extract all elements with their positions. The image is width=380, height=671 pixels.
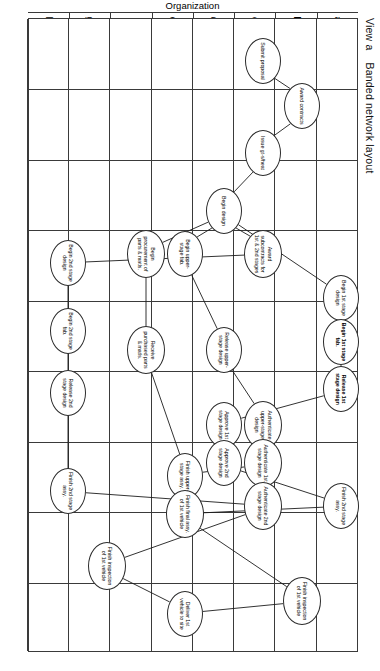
figure-title: View aBanded network layout <box>364 18 376 174</box>
node-label: Begin 2nd stage design <box>62 243 75 283</box>
edge-n26-n27 <box>203 604 283 612</box>
network-node-n12[interactable]: Release upper-stage design <box>206 327 242 373</box>
network-node-n6[interactable]: Begin upper-stage fab. <box>167 231 203 277</box>
network-node-n14[interactable]: Release 1st stage design <box>323 366 359 412</box>
network-node-n21[interactable]: Finish 2nd stage assy. <box>50 468 86 514</box>
edge-n5-n8 <box>86 255 244 262</box>
node-label: Approve 1st stage design <box>218 405 231 445</box>
node-label: Release 1st stage design <box>335 369 348 409</box>
network-node-n2[interactable]: Award contracts <box>284 83 320 129</box>
network-node-n25[interactable]: Finish inspection of 1st vehicle <box>88 542 126 590</box>
edge-n12-n16 <box>232 370 254 403</box>
network-node-n13[interactable]: Receive purchased parts & matls. <box>127 326 165 374</box>
network-node-n1[interactable]: Submit proposal <box>245 38 281 84</box>
network-node-n9[interactable]: Begin 1st stage design <box>323 275 359 321</box>
figure-title-text: Banded network layout <box>364 63 376 174</box>
network-node-n22[interactable]: Finish 2nd stage assy. <box>323 483 359 529</box>
network-node-n27[interactable]: Deliver 1st vehicle to site <box>167 591 203 637</box>
network-node-n19[interactable]: Approve 2nd stage design <box>206 440 242 486</box>
network-node-n10[interactable]: Begin 2nd stage fab. <box>50 308 86 354</box>
node-label: Submit proposal <box>260 42 266 80</box>
edge-n3-n4 <box>234 172 253 192</box>
node-label: Release 2nd stage design <box>62 373 75 413</box>
node-label: Authenticate 1st stage design <box>257 442 270 484</box>
node-label: Begin upper-stage fab. <box>179 234 192 274</box>
node-label: Finish 2nd stage assy. <box>335 486 348 526</box>
node-label: Begin design <box>221 196 227 226</box>
network-node-n4[interactable]: Begin design <box>206 188 242 234</box>
network-node-n5[interactable]: Award subcontracts for 1st & 2nd stages <box>244 230 282 278</box>
network-node-n24[interactable]: Finish final assy. of 1st vehicle <box>166 490 204 538</box>
edge-n25-n27 <box>123 579 169 602</box>
edge-n4-n6 <box>197 228 212 237</box>
node-label: Receive purchased parts & matls. <box>136 329 155 371</box>
network-node-n23[interactable]: Authenticate 2nd stage design <box>244 482 282 530</box>
node-label: Finish final assy. of 1st vehicle <box>179 493 192 535</box>
banded-network-figure: View aBanded network layout Organization… <box>0 0 380 671</box>
network-node-n7[interactable]: Begin procurement of parts & matls. <box>127 230 165 278</box>
edge-n13-n20 <box>152 373 180 454</box>
edge-n1-n2 <box>275 78 290 88</box>
network-node-n3[interactable]: Issue gt-s/heat <box>245 130 281 176</box>
node-label: Begin 2nd stage fab. <box>62 311 75 351</box>
network-node-n26[interactable]: Finish inspection of 1st vehicle <box>283 577 321 625</box>
node-label: Begin 1st stage fab. <box>335 322 348 362</box>
node-label: Issue gt-s/heat <box>260 136 266 170</box>
node-label: Authenticate 2nd stage design <box>257 485 270 527</box>
node-label: Finish inspection of 1st vehicle <box>101 545 114 587</box>
edge-n24-n26 <box>200 528 287 586</box>
node-label: Deliver 1st vehicle to site <box>179 594 192 634</box>
node-label: Begin 1st stage design <box>335 278 348 318</box>
edge-n21-n23 <box>86 493 244 504</box>
edge-n6-n12 <box>192 275 217 328</box>
node-label: Finish 2nd stage assy. <box>62 471 75 511</box>
node-label: Begin procurement of parts & matls. <box>136 233 155 275</box>
node-label: Approve 2nd stage design <box>218 443 231 483</box>
chart-area: Submit proposalAward contractsIssue gt-s… <box>28 18 358 652</box>
network-node-n8[interactable]: Begin 2nd stage design <box>50 240 86 286</box>
node-label: Finish inspection of 1st vehicle <box>296 580 309 622</box>
network-node-n18[interactable]: Authenticate 1st stage design <box>244 439 282 487</box>
view-label: View a <box>364 18 376 51</box>
network-node-n15[interactable]: Release 2nd stage design <box>50 370 86 416</box>
edge-n4-n5 <box>236 228 250 236</box>
node-label: Award contracts <box>299 87 305 124</box>
axis-title-text: Organization <box>166 1 220 12</box>
edge-n2-n3 <box>274 124 290 136</box>
network-node-n11[interactable]: Begin 1st stage fab. <box>323 319 359 365</box>
rotated-figure-stage: View aBanded network layout Organization… <box>0 0 380 671</box>
node-label: Award subcontracts for 1st & 2nd stages <box>253 233 272 275</box>
axis-title: Organization <box>28 0 358 12</box>
node-label: Release upper-stage design <box>218 330 231 370</box>
